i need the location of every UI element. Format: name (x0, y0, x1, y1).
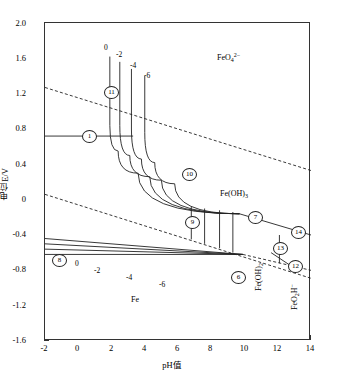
conc-label-top-1: -2 (116, 50, 122, 59)
region-marker-6: 6 (231, 271, 246, 284)
y-tick-label-5: 0 (0, 195, 26, 204)
species-label-hypoferrite: FeO2H− (289, 284, 300, 310)
conc-label-top-0: 0 (104, 43, 108, 52)
region-marker-13: 13 (273, 242, 288, 255)
conc-label-bottom-0: 0 (75, 259, 79, 268)
species-label-ferrate: FeO42− (217, 52, 240, 63)
species-label-iron-metal: Fe (131, 295, 139, 304)
region-marker-1: 1 (82, 130, 97, 143)
x-tick-label-3: 4 (129, 344, 159, 353)
y-tick-label-1: 1.6 (0, 54, 26, 63)
conc-label-bottom-3: -6 (159, 280, 165, 289)
y-tick-label-0: 2.0 (0, 19, 26, 28)
region-marker-11: 11 (104, 86, 119, 99)
x-tick-label-5: 8 (195, 344, 225, 353)
y-tick-label-7: -0.8 (0, 265, 26, 274)
region-marker-14: 14 (291, 226, 306, 239)
species-label-ferrous-hydroxide: Fe(OH)2 (254, 263, 264, 291)
conc-label-bottom-2: -4 (126, 273, 132, 282)
x-axis-title: pH值 (0, 358, 344, 370)
plot-area: FeO42− Fe(OH)3 Fe Fe(OH)2 FeO2H− 0 -2 -4… (44, 22, 310, 340)
y-tick-label-9: -1.6 (0, 336, 26, 345)
y-tick-label-4: 0.4 (0, 160, 26, 169)
y-tick-label-2: 1.2 (0, 89, 26, 98)
x-tick-label-8: 14 (295, 344, 325, 353)
y-tick-label-8: -1.2 (0, 301, 26, 310)
plot-lines-svg (45, 23, 311, 341)
region-marker-7: 7 (248, 211, 263, 224)
species-label-ferric-hydroxide: Fe(OH)3 (220, 189, 248, 199)
x-tick-label-7: 12 (262, 344, 292, 353)
conc-label-top-3: -6 (144, 71, 150, 80)
region-marker-12: 12 (288, 260, 303, 273)
conc-label-bottom-1: -2 (94, 266, 100, 275)
x-tick-label-1: 0 (62, 344, 92, 353)
conc-label-top-2: -4 (130, 61, 136, 70)
region-marker-10: 10 (182, 168, 197, 181)
x-tick-label-2: 2 (96, 344, 126, 353)
x-tick-label-0: -2 (29, 344, 59, 353)
x-tick-label-4: 6 (162, 344, 192, 353)
y-tick-label-6: -0.4 (0, 230, 26, 239)
region-marker-8: 8 (52, 254, 67, 267)
pourbaix-diagram-figure: 电位E/V 2.0 1.6 1.2 0.8 0.4 0 -0.4 -0.8 -1… (0, 0, 344, 390)
region-marker-9: 9 (185, 216, 200, 229)
x-tick-label-6: 10 (229, 344, 259, 353)
y-tick-label-3: 0.8 (0, 124, 26, 133)
